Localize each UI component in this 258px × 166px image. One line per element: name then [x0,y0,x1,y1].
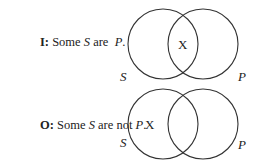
venn-diagrams: X S P X S P [0,0,258,166]
label-p-i: P [237,69,246,84]
circle-s-o [128,89,198,159]
label-p-o: P [237,137,246,152]
venn-diagram-o: X S P [120,89,246,159]
x-mark-s-only: X [145,117,155,132]
venn-diagram-i: X S P [120,9,246,84]
label-s-i: S [120,69,127,84]
circle-p-o [168,89,238,159]
circle-s-i [128,9,198,79]
x-mark-intersection: X [178,37,188,52]
label-s-o: S [120,135,127,150]
